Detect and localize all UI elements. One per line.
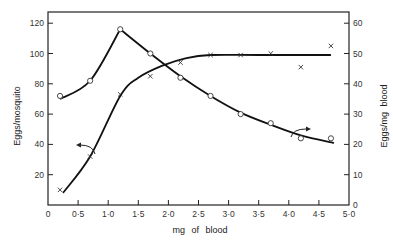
left-y-axis-ticks: 20406080100120 [30, 18, 53, 180]
right-y-tick-label: 10 [353, 170, 363, 180]
right-y-axis-ticks: 0102030405060 [344, 18, 363, 210]
left-y-tick-label: 20 [35, 170, 45, 180]
circle-marker-icon [118, 27, 123, 32]
circle-marker-icon [148, 51, 153, 56]
x-tick-label: 3·5 [253, 209, 266, 219]
right-y-tick-label: 60 [353, 18, 363, 28]
right-y-tick-label: 20 [353, 139, 363, 149]
cross-marker-icon [148, 74, 152, 78]
circle-marker-icon [208, 93, 213, 98]
curve-eggs-per-mg [120, 29, 334, 143]
x-tick-label: 0·5 [72, 209, 85, 219]
right-y-tick-label: 30 [353, 109, 363, 119]
right-arrowhead-icon [306, 127, 311, 132]
right-y-tick-label: 0 [353, 200, 358, 210]
cross-marker-icon [58, 188, 62, 192]
left-y-tick-label: 60 [35, 109, 45, 119]
x-tick-label: 4·5 [313, 209, 326, 219]
right-y-tick-label: 50 [353, 49, 363, 59]
right-y-axis-title: Eggs/mg blood [379, 84, 389, 147]
plot-frame [48, 12, 349, 205]
data-curves [60, 29, 334, 193]
x-tick-label: 0 [46, 209, 51, 219]
circle-marker-icon [238, 112, 243, 117]
curve-eggs-per-mosquito [63, 55, 331, 193]
right-y-tick-label: 40 [353, 79, 363, 89]
cross-marker-icon [329, 44, 333, 48]
left-y-tick-label: 80 [35, 79, 45, 89]
x-tick-label: 1·0 [102, 209, 115, 219]
left-y-tick-label: 120 [30, 18, 44, 28]
left-y-tick-label: 100 [30, 49, 44, 59]
circle-marker-icon [57, 93, 62, 98]
cross-marker-icon [299, 65, 303, 69]
chart-svg: 00·51·01·52·02·53·03·54·04·55·0 20406080… [0, 0, 393, 247]
curve-eggs-per-mg [60, 29, 120, 99]
left-y-axis-title: Eggs/mosquito [12, 86, 22, 146]
x-tick-label: 2·5 [192, 209, 205, 219]
circle-marker-icon [268, 121, 273, 126]
left-arrowhead-icon [76, 143, 81, 148]
x-tick-label: 1·5 [132, 209, 145, 219]
x-tick-label: 2·0 [162, 209, 175, 219]
x-axis-title: mg of blood [172, 225, 227, 235]
x-tick-label: 3·0 [222, 209, 235, 219]
x-axis-ticks: 00·51·01·52·02·53·03·54·04·55·0 [46, 200, 356, 219]
x-tick-label: 4·0 [283, 209, 296, 219]
data-markers [57, 27, 333, 192]
circle-marker-icon [88, 78, 93, 83]
circle-marker-icon [328, 136, 333, 141]
x-tick-label: 5·0 [343, 209, 356, 219]
left-y-tick-label: 40 [35, 139, 45, 149]
cross-marker-icon [178, 60, 182, 64]
circle-marker-icon [298, 136, 303, 141]
circle-marker-icon [178, 75, 183, 80]
